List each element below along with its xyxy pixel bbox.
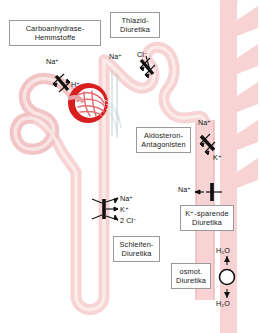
- label-line-2: Diuretika: [175, 276, 207, 286]
- nhe-exchanger-symbol: [53, 74, 70, 92]
- glomerulus: [68, 83, 121, 133]
- ion-label-enac-na: Na⁺: [178, 185, 192, 194]
- label-line-1: osmot.: [175, 267, 207, 277]
- label-line-1: K⁺-sparende: [184, 209, 230, 219]
- duct-branch-2: [237, 44, 258, 74]
- label-line-1: Aldosteron-: [140, 131, 187, 141]
- ion-label-distal-na: Na⁺: [109, 52, 123, 61]
- label-line-1: Schleifen-: [117, 240, 156, 250]
- label-line-2: Hemmstoffe: [13, 33, 97, 43]
- ion-label-collecting-na: Na⁺: [198, 118, 212, 127]
- label-line-2: Diuretika: [184, 218, 230, 228]
- ion-label-loop-na: Na⁺: [120, 194, 134, 203]
- label-line-2: Diuretika: [117, 249, 156, 259]
- duct-branch-1: [237, 6, 258, 36]
- ion-label-water-bottom: H₂O: [216, 299, 230, 308]
- ion-label-proximal-h: H⁺: [71, 80, 80, 89]
- label-aldosteron-antagonisten: Aldosteron- Antagonisten: [136, 127, 191, 153]
- label-kalium-sparende-diuretika: K⁺-sparende Diuretika: [180, 205, 234, 231]
- duct-branch-5: [237, 158, 258, 188]
- ion-label-water-top: H₂O: [216, 246, 230, 255]
- label-osmotische-diuretika: osmot. Diuretika: [171, 263, 211, 289]
- label-carboanhydrase-hemmstoffe: Carboanhydrase- Hemmstoffe: [9, 20, 101, 46]
- label-line-1: Carboanhydrase-: [13, 24, 97, 34]
- ion-label-collecting-k: K⁺: [213, 153, 222, 162]
- label-line-2: Diuretika: [114, 25, 156, 35]
- nephron-diuretics-diagram: Carboanhydrase- Hemmstoffe Thiazid- Diur…: [0, 0, 260, 333]
- ion-label-loop-cl: 2 Cl⁻: [120, 216, 137, 225]
- ion-label-proximal-na: Na⁺: [46, 57, 60, 66]
- ion-label-distal-cl: Cl⁻: [137, 50, 148, 59]
- nephron-illustration: [0, 0, 260, 333]
- label-thiazid-diuretika: Thiazid- Diuretika: [110, 12, 160, 38]
- duct-branch-3: [237, 82, 258, 112]
- duct-branch-4: [237, 120, 258, 150]
- label-schleifen-diuretika: Schleifen- Diuretika: [113, 236, 160, 262]
- label-line-2: Antagonisten: [140, 140, 187, 150]
- ion-label-loop-k: K⁺: [120, 205, 129, 214]
- label-line-1: Thiazid-: [114, 16, 156, 26]
- nkcc-cotransporter-symbol: [92, 198, 118, 220]
